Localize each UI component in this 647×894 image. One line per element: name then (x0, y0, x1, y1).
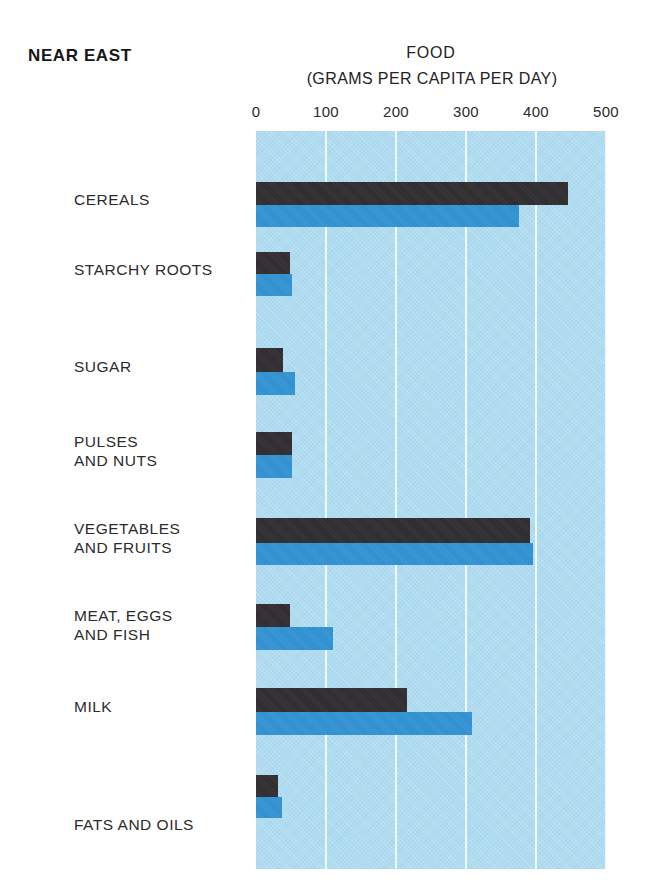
category-label: FATS AND OILS (74, 815, 194, 834)
category-axis-labels: CEREALSSTARCHY ROOTSSUGARPULSES AND NUTS… (0, 0, 247, 894)
gridline (465, 131, 467, 869)
bar-blue (256, 455, 292, 478)
bar-blue (256, 797, 282, 818)
plot-area (256, 131, 606, 869)
x-tick-label: 200 (383, 103, 409, 120)
bar-dark (256, 348, 283, 372)
x-tick-label: 100 (313, 103, 339, 120)
bar-blue (256, 372, 295, 395)
bar-dark (256, 432, 292, 455)
category-label: PULSES AND NUTS (74, 432, 157, 470)
category-label: STARCHY ROOTS (74, 260, 213, 279)
chart-subtitle: (GRAMS PER CAPITA PER DAY) (246, 70, 618, 88)
chart-title: FOOD (256, 44, 606, 62)
bar-dark (256, 604, 290, 627)
x-tick-label: 400 (523, 103, 549, 120)
bar-blue (256, 712, 472, 735)
category-label: VEGETABLES AND FRUITS (74, 519, 180, 557)
bar-dark (256, 688, 407, 712)
bar-blue (256, 274, 292, 296)
x-axis: 0100200300400500 (256, 103, 606, 125)
bar-dark (256, 775, 278, 797)
bar-dark (256, 252, 290, 274)
x-tick-label: 0 (252, 103, 261, 120)
category-label: CEREALS (74, 190, 150, 209)
category-label: SUGAR (74, 357, 132, 376)
gridline (395, 131, 397, 869)
gridline (605, 131, 606, 869)
bar-blue (256, 205, 519, 227)
x-tick-label: 500 (593, 103, 619, 120)
gridline (325, 131, 327, 869)
bar-dark (256, 182, 568, 205)
bar-blue (256, 627, 333, 650)
category-label: MILK (74, 697, 112, 716)
bar-blue (256, 543, 533, 565)
category-label: MEAT, EGGS AND FISH (74, 606, 173, 644)
gridline (535, 131, 537, 869)
x-tick-label: 300 (453, 103, 479, 120)
bar-dark (256, 518, 530, 543)
